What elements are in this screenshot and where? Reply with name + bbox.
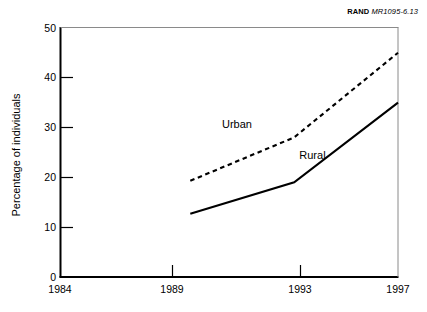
- x-tick-label-1993: 1993: [280, 283, 320, 295]
- series-label-urban: Urban: [222, 118, 252, 130]
- y-tick-label-20: 20: [30, 171, 56, 183]
- series-line-urban: [190, 53, 398, 181]
- x-tick-label-1984: 1984: [40, 283, 80, 295]
- x-axis-ticks: [173, 265, 301, 277]
- x-tick-label-1997: 1997: [378, 283, 418, 295]
- series-label-rural: Rural: [299, 149, 325, 161]
- x-tick-label-1989: 1989: [152, 283, 192, 295]
- y-tick-label-10: 10: [30, 221, 56, 233]
- y-tick-label-40: 40: [30, 71, 56, 83]
- plot-area: [0, 0, 427, 312]
- axes-frame: [60, 27, 399, 278]
- y-tick-label-30: 30: [30, 121, 56, 133]
- y-axis-ticks: [61, 28, 74, 228]
- y-tick-label-0: 0: [30, 271, 56, 283]
- chart-figure: RAND MR1095-6.13 Percentage of individua…: [0, 0, 427, 312]
- y-tick-label-50: 50: [30, 22, 56, 34]
